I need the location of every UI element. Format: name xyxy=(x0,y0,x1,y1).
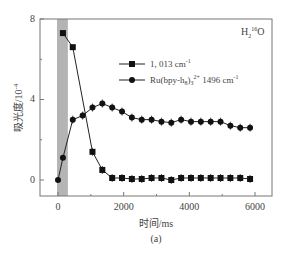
square-marker-icon xyxy=(247,176,253,182)
circle-marker-icon xyxy=(237,125,243,131)
y-axis-label-main: 吸光度/10 xyxy=(12,90,24,133)
ytick-label: 0 xyxy=(30,174,35,185)
circle-marker-icon xyxy=(55,177,61,183)
circle-marker-icon xyxy=(158,119,164,125)
legend2-a: Ru(bpy-h xyxy=(150,75,185,85)
legend2-sub3: 3 xyxy=(191,80,194,86)
circle-marker-icon xyxy=(89,105,95,111)
square-marker-icon xyxy=(208,175,214,181)
series-line xyxy=(58,104,250,180)
circle-marker-icon xyxy=(247,125,253,131)
circle-marker-icon xyxy=(80,113,86,119)
square-marker-icon xyxy=(129,176,135,182)
circle-marker-icon xyxy=(208,119,214,125)
square-marker-icon xyxy=(168,177,174,183)
y-axis-label: 吸光度/10-4 xyxy=(12,83,24,132)
x-axis-label: 时间/ms xyxy=(139,217,174,229)
legend2-c: 1496 cm xyxy=(200,75,234,85)
legend2-sup2: -1 xyxy=(233,74,238,80)
circle-marker-icon xyxy=(218,119,224,125)
circle-marker-icon xyxy=(149,117,155,123)
circle-marker-icon xyxy=(168,120,174,126)
square-marker-icon xyxy=(70,44,76,50)
circle-marker-icon xyxy=(119,109,125,115)
circle-marker-icon xyxy=(188,119,194,125)
annotation-water-isotope: H216O xyxy=(241,26,264,39)
legend1-text: 1, 013 cm xyxy=(150,59,186,69)
legend-label-1: 1, 013 cm-1 xyxy=(150,58,191,69)
circle-marker-icon xyxy=(109,105,115,111)
circle-marker-icon xyxy=(99,101,105,107)
square-marker-icon xyxy=(198,175,204,181)
annot-sub: 2 xyxy=(248,33,251,39)
xtick-label: 6000 xyxy=(245,201,265,212)
circle-marker-icon xyxy=(70,117,76,123)
square-marker-icon xyxy=(60,30,66,36)
xtick-label: 4000 xyxy=(179,201,199,212)
legend-square-marker-icon xyxy=(129,61,135,67)
y-axis-label-exp: -4 xyxy=(12,83,20,89)
legend-label-2: Ru(bpy-h8)32+ 1496 cm-1 xyxy=(150,74,238,86)
square-marker-icon xyxy=(139,176,145,182)
ytick-label: 4 xyxy=(30,93,35,104)
square-marker-icon xyxy=(188,175,194,181)
square-marker-icon xyxy=(227,175,233,181)
annot-h: H xyxy=(241,26,248,37)
legend1-sup: -1 xyxy=(186,58,191,64)
square-marker-icon xyxy=(218,175,224,181)
legend: 1, 013 cm-1 Ru(bpy-h8)32+ 1496 cm-1 xyxy=(119,58,238,86)
line-chart: 0 4 8 0 2000 4000 6000 时间/ms (a) 吸光度/10-… xyxy=(0,0,289,262)
square-marker-icon xyxy=(109,175,115,181)
square-marker-icon xyxy=(99,167,105,173)
annot-o: O xyxy=(257,26,264,37)
circle-marker-icon xyxy=(178,117,184,123)
ytick-label: 8 xyxy=(30,13,35,24)
circle-marker-icon xyxy=(129,115,135,121)
xtick-label: 2000 xyxy=(114,201,134,212)
circle-marker-icon xyxy=(227,123,233,129)
legend-circle-marker-icon xyxy=(129,77,135,83)
data-series xyxy=(55,30,253,184)
square-marker-icon xyxy=(89,149,95,155)
square-marker-icon xyxy=(119,175,125,181)
xtick-label: 0 xyxy=(56,201,61,212)
shaded-region xyxy=(57,19,68,196)
panel-label: (a) xyxy=(150,233,161,245)
square-marker-icon xyxy=(149,175,155,181)
circle-marker-icon xyxy=(198,119,204,125)
circle-marker-icon xyxy=(139,117,145,123)
circle-marker-icon xyxy=(60,155,66,161)
square-marker-icon xyxy=(237,175,243,181)
square-marker-icon xyxy=(158,175,164,181)
svg-text:吸光度/10-4: 吸光度/10-4 xyxy=(12,83,24,132)
square-marker-icon xyxy=(178,175,184,181)
